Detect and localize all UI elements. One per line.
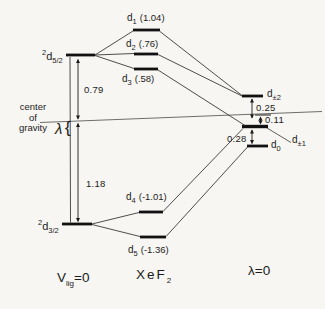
label-d3-sub: 3 [128,78,132,87]
line-d5-d0 [166,147,248,237]
gap-value-118: 1.18 [86,178,106,189]
center-of-gravity-label: center of gravity [12,102,54,134]
label-d0: d0 [271,139,281,154]
line-d32-d5 [92,225,140,237]
footer-vlig-base: V [57,270,66,285]
label-2d32: 2d3/2 [38,217,59,236]
line-d52-d3 [95,56,134,69]
line-d2-dpm2 [158,55,242,97]
label-d1-sub: 1 [133,17,137,26]
label-d5-sub: 5 [134,249,138,258]
gap-value-079: 0.79 [84,84,104,95]
line-d52-d2 [95,54,134,56]
energy-level-diagram: 2d5/2 2d3/2 center of gravity λ { 0.79 1… [0,0,325,309]
gap-value-011: 0.11 [265,114,284,125]
footer-xef2-sub: 2 [167,276,173,285]
cog-line1: center [12,102,54,113]
label-d1: d1(1.04) [127,12,165,27]
footer-vlig-sub: lig [66,279,74,288]
footer-xef2-base: XeF [136,267,167,282]
label-d5: d5(-1.36) [128,244,169,259]
lambda-interval-line [70,57,71,223]
footer-lambda0: λ=0 [248,265,270,276]
label-d4: d4(-1.01) [126,191,167,206]
label-d0-sub: 0 [277,144,281,153]
footer-vlig-eq: =0 [74,270,89,285]
label-2d52-sub: 5/2 [52,56,62,65]
gap-value-025: 0.25 [256,102,276,113]
gap-value-028: 0.28 [227,133,247,144]
label-d4-sub: 4 [132,196,136,205]
line-d32-d4 [92,213,139,225]
label-dpm1-sub: ±1 [298,139,306,148]
label-d5-value: (-1.36) [141,244,169,255]
label-d1-value: (1.04) [140,12,165,23]
cog-line3: gravity [12,123,54,134]
label-d3-value: (.58) [135,73,155,84]
footer-xef2: XeF2 [136,269,173,286]
label-d2-value: (.76) [139,38,159,49]
label-2d32-sub: 3/2 [48,226,58,235]
lambda-symbol: λ [55,123,62,134]
label-d2-sub: 2 [132,43,136,52]
label-d4-value: (-1.01) [139,191,167,202]
label-dpm2-sub: ±2 [273,93,281,102]
footer-vlig: Vlig=0 [57,272,89,289]
label-d3: d3(.58) [122,73,154,88]
label-2d52: 2d5/2 [42,47,63,66]
label-dpm2: d±2 [267,88,281,103]
label-dpm1: d±1 [292,134,306,149]
lambda-brace: { [65,122,71,133]
line-d1-dpm2 [160,32,242,96]
label-d2: d2(.76) [126,38,158,53]
